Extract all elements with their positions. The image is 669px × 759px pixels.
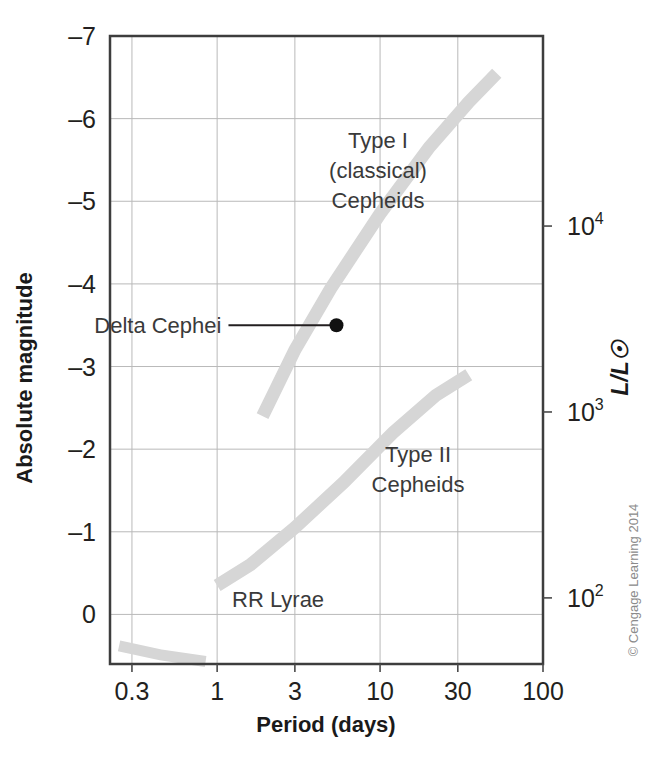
figure-container: 0.3131030100 –7–6–5–4–3–2–10 104103102 P… — [0, 0, 669, 759]
y2-tick-exponent: 4 — [595, 210, 604, 227]
y-tick-label: 0 — [82, 600, 96, 628]
y-axis-tick-labels: –7–6–5–4–3–2–10 — [68, 22, 96, 628]
x-tick-label: 1 — [210, 677, 224, 705]
y2-axis-tickmarks — [543, 226, 552, 598]
y2-tick-label: 103 — [567, 396, 604, 426]
y-tick-label: –1 — [68, 518, 96, 546]
y2-tick-exponent: 3 — [595, 396, 604, 413]
annotation-marker-delta-cephei — [329, 318, 343, 332]
y-tick-label: –4 — [68, 270, 96, 298]
x-tick-label: 100 — [522, 677, 564, 705]
x-axis-tick-labels: 0.3131030100 — [115, 677, 564, 705]
series-label-type-i-classical-cepheids: Cepheids — [332, 188, 425, 213]
y2-tick-exponent: 2 — [595, 582, 604, 599]
y-tick-label: –7 — [68, 22, 96, 50]
series-label-type-i-classical-cepheids: (classical) — [329, 158, 427, 183]
annotation-label-delta-cephei: Delta Cephei — [94, 313, 221, 338]
x-tick-label: 0.3 — [115, 677, 150, 705]
x-tick-label: 3 — [288, 677, 302, 705]
x-tick-label: 30 — [444, 677, 472, 705]
x-axis-title: Period (days) — [256, 712, 395, 737]
y-tick-label: –6 — [68, 105, 96, 133]
plot-area-background — [110, 36, 543, 664]
y2-tick-label: 104 — [567, 210, 604, 240]
y-tick-label: –5 — [68, 187, 96, 215]
y2-axis-title: L/L☉ — [607, 339, 633, 395]
y2-tick-label: 102 — [567, 582, 604, 612]
y-tick-label: –3 — [68, 353, 96, 381]
series-label-type-ii-cepheids: Cepheids — [372, 472, 465, 497]
series-label-rr-lyrae: RR Lyrae — [232, 587, 324, 612]
pulsating-variable-period-luminosity-chart: 0.3131030100 –7–6–5–4–3–2–10 104103102 P… — [0, 0, 669, 759]
series-label-type-ii-cepheids: Type II — [385, 442, 451, 467]
y-axis-title: Absolute magnitude — [12, 272, 37, 483]
y-tick-label: –2 — [68, 435, 96, 463]
copyright-credit: © Cengage Learning 2014 — [626, 504, 641, 657]
x-tick-label: 10 — [366, 677, 394, 705]
y2-axis-tick-labels: 104103102 — [567, 210, 604, 612]
series-label-type-i-classical-cepheids: Type I — [348, 128, 408, 153]
